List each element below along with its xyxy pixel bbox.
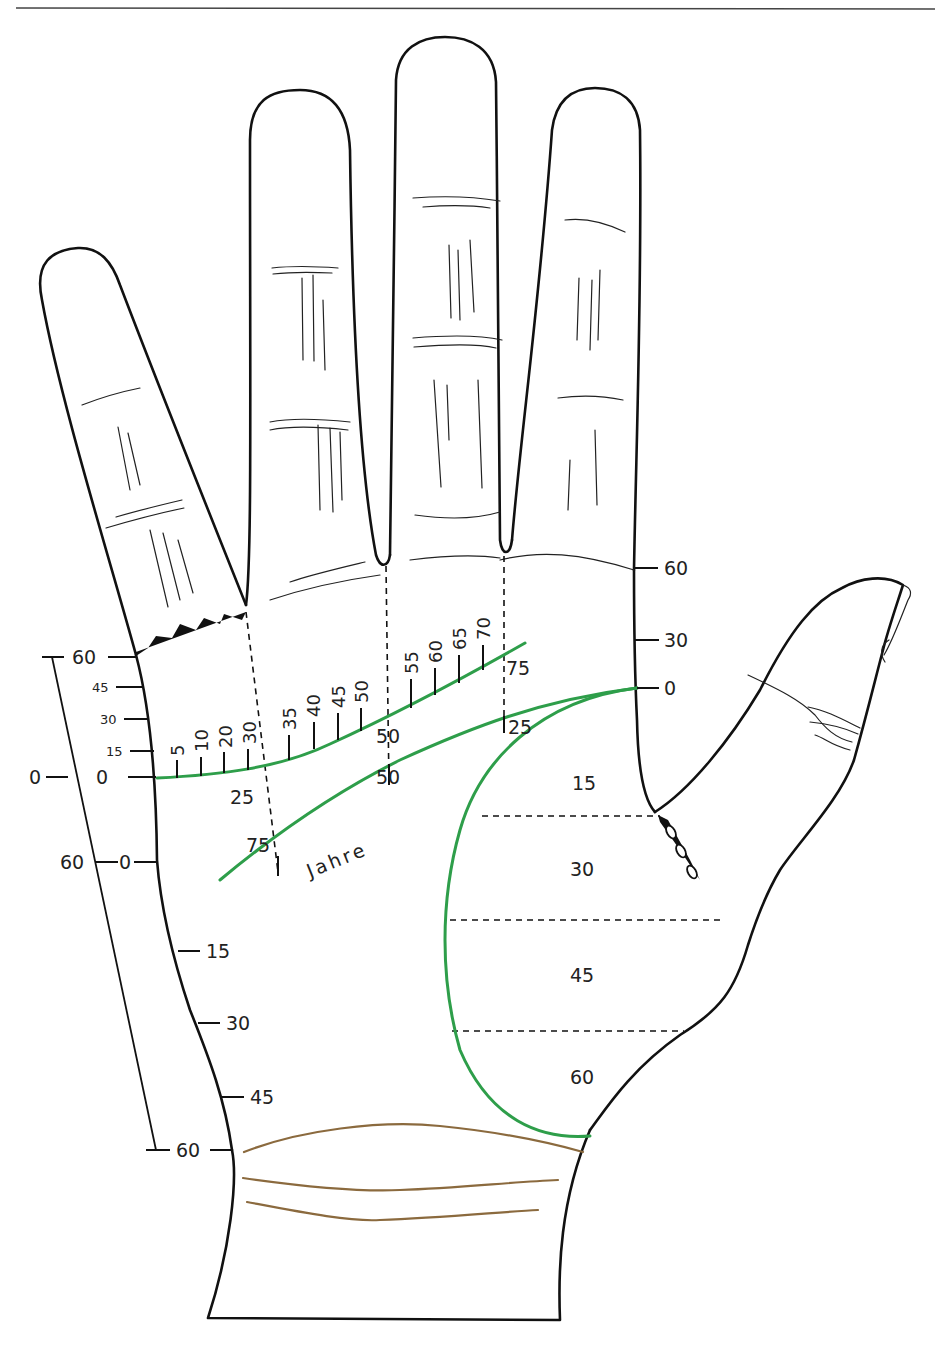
index-finger-outline xyxy=(512,88,640,570)
heart-age-10: 10 xyxy=(191,729,212,752)
thumb-web-chain-mark xyxy=(658,815,720,920)
left-scale-inner-0: 0 xyxy=(96,766,108,788)
thumb-outline xyxy=(590,578,903,1130)
heart-age-30: 30 xyxy=(239,721,260,744)
little-finger-base-marks xyxy=(136,612,246,656)
mount-age-30: 30 xyxy=(570,858,594,880)
head-age-50-upper: 50 xyxy=(376,725,400,747)
left-scale-outer-60: 60 xyxy=(60,851,84,873)
wrist-outline xyxy=(208,1130,590,1320)
left-scale-lower-0: 0 xyxy=(119,851,131,873)
life-age-75: 75 xyxy=(246,834,270,856)
mount-age-60: 60 xyxy=(570,1066,594,1088)
ring-finger-outline xyxy=(246,90,390,605)
life-age-50: 50 xyxy=(376,766,400,788)
heart-age-75: 75 xyxy=(506,657,530,679)
left-scale-lower-45: 45 xyxy=(250,1086,274,1108)
heart-age-20: 20 xyxy=(215,725,236,748)
mount-age-45: 45 xyxy=(570,964,594,986)
little-finger-outline xyxy=(40,248,246,655)
wrist-creases xyxy=(243,1124,583,1220)
heart-age-55: 55 xyxy=(401,651,422,674)
left-scale-inner-30: 30 xyxy=(100,712,117,727)
palmistry-hand-diagram: 5 10 20 30 35 40 45 50 55 60 65 70 75 25… xyxy=(0,0,950,1361)
mount-age-15: 15 xyxy=(572,772,596,794)
head-age-25: 25 xyxy=(230,786,254,808)
left-scale-outer-60-top: 60 xyxy=(72,646,96,668)
heart-age-70: 70 xyxy=(473,617,494,640)
thumbnail-outline xyxy=(884,585,911,655)
heart-age-40: 40 xyxy=(303,694,324,717)
right-scale-30: 30 xyxy=(664,629,688,651)
left-scale-lower-60: 60 xyxy=(176,1139,200,1161)
heart-age-60: 60 xyxy=(425,640,446,663)
left-scale-lower-15: 15 xyxy=(206,940,230,962)
thumb-creases xyxy=(748,675,860,750)
hand-outline xyxy=(40,37,910,1320)
right-scale-60: 60 xyxy=(664,557,688,579)
right-age-scale-ticks xyxy=(634,568,659,688)
middle-finger-outline xyxy=(390,37,512,555)
heart-age-65: 65 xyxy=(449,627,470,650)
heart-line xyxy=(157,643,525,778)
life-age-25: 25 xyxy=(508,716,532,738)
heart-age-5: 5 xyxy=(167,745,188,756)
life-line xyxy=(445,688,637,1136)
left-scale-lower-30: 30 xyxy=(226,1012,250,1034)
left-scale-inner-15: 15 xyxy=(106,744,123,759)
heart-age-35: 35 xyxy=(279,707,300,730)
right-scale-0: 0 xyxy=(664,677,676,699)
header-rule xyxy=(16,8,935,9)
heart-age-50: 50 xyxy=(351,680,372,703)
palm-right-edge xyxy=(634,570,655,812)
left-scale-outer-0: 0 xyxy=(29,766,41,788)
jahre-label: Jahre xyxy=(302,838,370,883)
heart-line-age-ticks xyxy=(177,645,504,876)
left-scale-inner-45: 45 xyxy=(92,680,109,695)
heart-age-45: 45 xyxy=(328,685,349,708)
